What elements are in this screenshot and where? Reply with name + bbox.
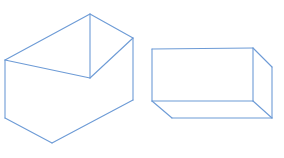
right-box-bottom-face (152, 101, 272, 118)
right-rectangular-box (152, 48, 272, 118)
right-box-front-face (152, 48, 253, 101)
drawing-canvas (0, 0, 284, 158)
wireframe-figure-svg (0, 0, 284, 158)
